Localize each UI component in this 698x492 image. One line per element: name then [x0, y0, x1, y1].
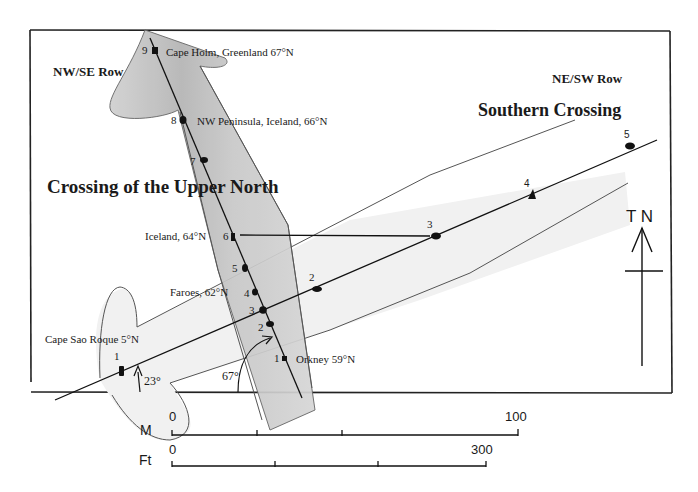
un-num-8: 8 — [171, 114, 177, 126]
north-marker-label: T N — [626, 207, 653, 226]
un-place-4: Faroes, 62°N — [170, 286, 228, 298]
scale-feet-start: 0 — [169, 442, 176, 457]
marker-un-5 — [242, 264, 248, 272]
marker-un-1 — [282, 356, 287, 361]
marker-un-8 — [180, 116, 187, 124]
nesw-row-label: NE/SW Row — [552, 71, 623, 86]
un-place-1: Orkney 59°N — [296, 353, 355, 365]
marker-s-5 — [625, 143, 635, 150]
scale-bar-feet — [172, 461, 486, 467]
marker-un-4 — [252, 289, 258, 296]
marker-s-3 — [431, 233, 441, 240]
crossing-diagram: NW/SE Row NE/SW Row Crossing of the Uppe… — [0, 0, 698, 492]
scale-meters-start: 0 — [169, 409, 176, 424]
marker-un-9 — [152, 47, 158, 54]
marker-un-7 — [200, 157, 208, 163]
marker-un-3 — [259, 306, 267, 314]
s-num-5: 5 — [624, 129, 630, 140]
un-place-8: NW Peninsula, Iceland, 66°N — [197, 115, 327, 127]
un-num-3: 3 — [249, 304, 255, 316]
angle-67-label: 67° — [222, 369, 239, 383]
un-num-4: 4 — [244, 287, 250, 299]
frame-left — [30, 30, 31, 382]
s-num-2: 2 — [309, 271, 315, 283]
scale-meters-end: 100 — [505, 409, 527, 424]
un-place-9: Cape Holm, Greenland 67°N — [166, 46, 294, 58]
nwse-row-label: NW/SE Row — [53, 64, 124, 79]
scale-meters-label: M — [140, 422, 152, 438]
un-num-7: 7 — [190, 155, 196, 167]
marker-un-6 — [231, 233, 235, 241]
un-num-9: 9 — [142, 44, 148, 56]
un-num-2: 2 — [258, 321, 264, 333]
scale-bar-meters — [172, 429, 518, 436]
un-place-6: Iceland, 64°N — [145, 230, 206, 242]
s-place-1: Cape Sao Roque 5°N — [45, 333, 139, 345]
upper-north-title: Crossing of the Upper North — [47, 176, 279, 197]
un-num-5: 5 — [232, 262, 238, 274]
marker-s-1 — [119, 366, 124, 376]
scale-feet-end: 300 — [471, 442, 493, 457]
marker-un-2 — [266, 321, 274, 327]
north-arrow — [625, 228, 663, 366]
angle-23-label: 23° — [144, 374, 161, 388]
scale-feet-label: Ft — [139, 452, 152, 468]
s-num-3: 3 — [427, 218, 433, 230]
frame-top — [30, 30, 670, 31]
marker-s-2 — [312, 286, 322, 292]
frame-right — [670, 31, 672, 393]
s-num-4: 4 — [524, 178, 530, 189]
un-num-1: 1 — [274, 352, 280, 364]
southern-title: Southern Crossing — [478, 100, 621, 120]
un-num-6: 6 — [223, 230, 229, 242]
s-num-1: 1 — [114, 350, 120, 362]
